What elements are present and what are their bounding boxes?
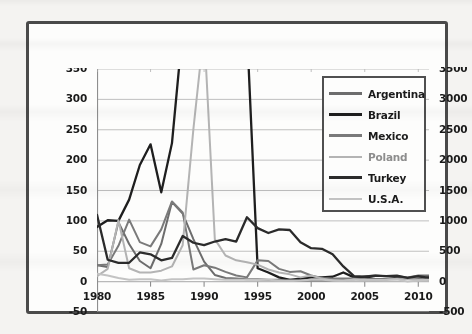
x-axis-tick-label: 1980 xyxy=(71,290,123,302)
legend-label: Poland xyxy=(368,151,407,163)
legend-item-mexico[interactable]: Mexico xyxy=(324,125,424,146)
legend-swatch-icon xyxy=(329,176,362,179)
chart-frame: -50050100150200250300350 -50005001000150… xyxy=(26,21,448,314)
x-axis-tick-label: 1995 xyxy=(232,290,284,302)
y-axis-right-tick-label: 2500 xyxy=(439,123,467,135)
y-axis-right-tick-label: 0 xyxy=(439,275,446,287)
chart-page: -50050100150200250300350 -50005001000150… xyxy=(0,0,472,334)
legend-label: Brazil xyxy=(368,109,400,121)
legend-item-usa[interactable]: U.S.A. xyxy=(324,188,424,209)
y-axis-right-tick-label: 1500 xyxy=(439,184,467,196)
series-line-argentina xyxy=(97,202,429,280)
y-axis-right-tick-label: 2000 xyxy=(439,153,467,165)
y-axis-left-tick-label: 50 xyxy=(35,244,87,256)
legend-label: Mexico xyxy=(368,130,408,142)
legend-item-argentina[interactable]: Argentina xyxy=(324,83,424,104)
x-axis-tick-label: 1985 xyxy=(125,290,177,302)
y-axis-right-tick-label: 3000 xyxy=(439,92,467,104)
y-axis-left-tick-label: -50 xyxy=(35,305,87,317)
legend-item-brazil[interactable]: Brazil xyxy=(324,104,424,125)
y-axis-right-tick-label: -500 xyxy=(439,305,464,317)
y-axis-right-tick-label: 3500 xyxy=(439,62,467,74)
legend-swatch-icon xyxy=(329,113,362,116)
y-axis-left-tick-label: 200 xyxy=(35,153,87,165)
legend-swatch-icon xyxy=(329,198,362,200)
y-axis-right-tick-label: 1000 xyxy=(439,214,467,226)
y-axis-left-tick-label: 0 xyxy=(35,275,87,287)
y-axis-left-tick-label: 150 xyxy=(35,184,87,196)
x-axis-tick-label: 1990 xyxy=(178,290,230,302)
legend-swatch-icon xyxy=(329,92,362,95)
x-axis-tick-label: 2005 xyxy=(339,290,391,302)
chart-legend[interactable]: ArgentinaBrazilMexicoPolandTurkeyU.S.A. xyxy=(322,76,426,212)
x-axis-tick-label: 2000 xyxy=(285,290,337,302)
y-axis-left-tick-label: 350 xyxy=(35,62,87,74)
x-axis-tick-label: 2010 xyxy=(392,290,444,302)
y-axis-left-tick-label: 300 xyxy=(35,92,87,104)
legend-item-turkey[interactable]: Turkey xyxy=(324,167,424,188)
legend-swatch-icon xyxy=(329,134,362,137)
legend-item-poland[interactable]: Poland xyxy=(324,146,424,167)
legend-label: U.S.A. xyxy=(368,193,403,205)
y-axis-left-tick-label: 100 xyxy=(35,214,87,226)
legend-label: Argentina xyxy=(368,88,425,100)
legend-label: Turkey xyxy=(368,172,406,184)
y-axis-right-tick-label: 500 xyxy=(439,244,460,256)
legend-swatch-icon xyxy=(329,156,362,158)
series-line-turkey xyxy=(97,215,429,278)
y-axis-left-tick-label: 250 xyxy=(35,123,87,135)
